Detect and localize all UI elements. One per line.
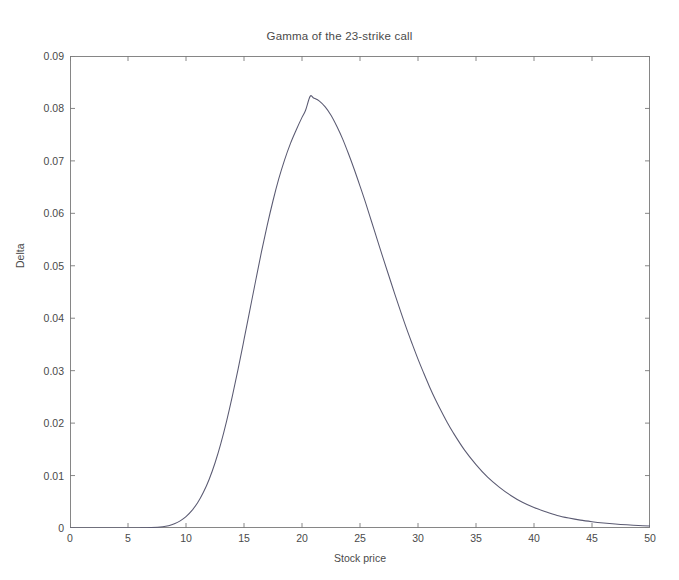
y-tick-label: 0.05 — [44, 260, 64, 272]
y-axis-label: Delta — [14, 243, 26, 268]
x-tick-label: 40 — [528, 532, 540, 544]
y-tick-label: 0.01 — [44, 470, 64, 482]
figure-canvas: Gamma of the 23-strike call 00.010.020.0… — [0, 0, 679, 580]
x-tick-label: 15 — [238, 532, 250, 544]
x-tick-label: 10 — [180, 532, 192, 544]
x-tick-label: 45 — [586, 532, 598, 544]
y-tick-label: 0.09 — [44, 50, 64, 62]
x-tick-label: 20 — [296, 532, 308, 544]
plot-area — [70, 56, 650, 528]
plot-border — [71, 57, 650, 528]
y-tick-label: 0.08 — [44, 102, 64, 114]
x-tick-label: 0 — [67, 532, 73, 544]
chart-title: Gamma of the 23-strike call — [0, 30, 679, 42]
y-tick-label: 0 — [58, 522, 64, 534]
x-tick-label: 50 — [644, 532, 656, 544]
x-axis-tick-labels: 05101520253035404550 — [70, 532, 650, 552]
y-tick-label: 0.06 — [44, 207, 64, 219]
x-tick-label: 30 — [412, 532, 424, 544]
y-tick-label: 0.02 — [44, 417, 64, 429]
plot-svg — [70, 56, 650, 528]
y-tick-label: 0.03 — [44, 365, 64, 377]
x-tick-label: 5 — [125, 532, 131, 544]
x-axis-label: Stock price — [70, 552, 650, 564]
x-tick-label: 25 — [354, 532, 366, 544]
y-axis-tick-labels: 00.010.020.030.040.050.060.070.080.09 — [0, 56, 64, 528]
y-tick-label: 0.07 — [44, 155, 64, 167]
y-tick-label: 0.04 — [44, 312, 64, 324]
x-tick-label: 35 — [470, 532, 482, 544]
